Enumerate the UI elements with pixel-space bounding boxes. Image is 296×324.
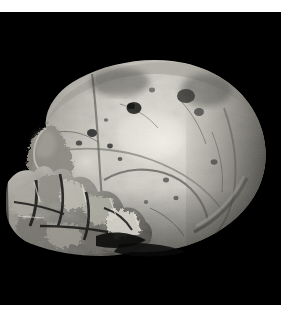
photo-plate — [0, 12, 281, 305]
photo-caption — [0, 305, 281, 324]
cranium-photograph — [0, 12, 281, 305]
page-margin-right — [281, 0, 296, 324]
page-margin-top — [0, 0, 296, 12]
photograph-page — [0, 0, 296, 324]
